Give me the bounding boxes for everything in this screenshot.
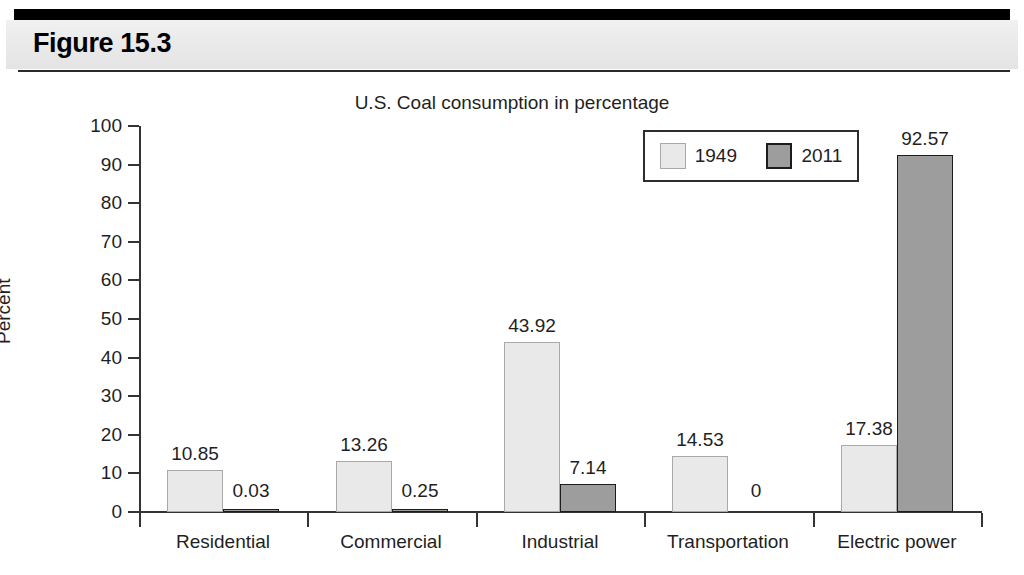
figure-label: Figure 15.3	[33, 28, 171, 59]
y-axis-tick	[128, 511, 139, 513]
bar-1949-3-value-label: 14.53	[655, 429, 745, 451]
y-axis-tick	[128, 279, 139, 281]
bar-2011-4[interactable]	[897, 155, 953, 512]
y-axis-tick-labels: 1009080706050403020100	[50, 82, 122, 575]
bar-2011-0[interactable]	[223, 509, 279, 512]
y-axis-tick-label: 40	[62, 347, 122, 369]
x-axis-tick	[307, 513, 309, 527]
x-axis-category-label: Industrial	[476, 531, 644, 553]
y-axis-tick-label: 50	[62, 308, 122, 330]
y-axis-tick	[128, 434, 139, 436]
legend-swatch-1949-icon	[660, 143, 686, 169]
bar-2011-3-value-label: 0	[711, 480, 801, 502]
y-axis-tick	[128, 472, 139, 474]
x-axis-category-label: Residential	[139, 531, 307, 553]
x-axis-tick	[813, 513, 815, 527]
bar-2011-1-value-label: 0.25	[375, 480, 465, 502]
bar-1949-2-value-label: 43.92	[487, 315, 577, 337]
legend-label-2011: 2011	[801, 145, 842, 167]
x-axis-category-label: Electric power	[813, 531, 981, 553]
bar-2011-2[interactable]	[560, 484, 616, 512]
x-axis-category-label: Commercial	[307, 531, 475, 553]
y-axis-tick	[128, 395, 139, 397]
y-axis-tick-label: 70	[62, 231, 122, 253]
y-axis-tick	[128, 318, 139, 320]
legend-label-1949: 1949	[695, 145, 737, 167]
figure-header: Figure 15.3	[0, 0, 1024, 82]
bar-2011-1[interactable]	[392, 509, 448, 512]
x-axis-tick	[981, 513, 983, 527]
bar-1949-1-value-label: 13.26	[319, 434, 409, 456]
x-axis-tick	[644, 513, 646, 527]
chart-region: U.S. Coal consumption in percentage Perc…	[0, 82, 1024, 575]
y-axis-tick-label: 100	[62, 115, 122, 137]
y-axis-tick-label: 90	[62, 154, 122, 176]
bar-2011-4-value-label: 92.57	[880, 128, 970, 150]
bar-2011-0-value-label: 0.03	[206, 480, 296, 502]
header-divider-rule	[18, 70, 1010, 72]
y-axis-tick	[128, 164, 139, 166]
y-axis-tick-label: 20	[62, 424, 122, 446]
y-axis-tick	[128, 125, 139, 127]
legend-swatch-2011-icon	[766, 143, 792, 169]
bar-2011-2-value-label: 7.14	[543, 457, 633, 479]
y-axis-line	[139, 126, 141, 524]
chart-legend: 1949 2011	[643, 130, 859, 182]
bar-1949-0-value-label: 10.85	[150, 443, 240, 465]
y-axis-tick-label: 60	[62, 269, 122, 291]
x-axis-tick	[139, 513, 141, 527]
legend-item-2011[interactable]: 2011	[766, 143, 842, 169]
bar-1949-2[interactable]	[504, 342, 560, 512]
x-axis-category-label: Transportation	[644, 531, 812, 553]
y-axis-tick-label: 10	[62, 462, 122, 484]
y-axis-tick-label: 0	[62, 501, 122, 523]
bar-1949-4[interactable]	[841, 445, 897, 512]
y-axis-tick-label: 30	[62, 385, 122, 407]
y-axis-tick	[128, 202, 139, 204]
chart-title: U.S. Coal consumption in percentage	[0, 92, 1024, 114]
x-axis-tick	[476, 513, 478, 527]
y-axis-tick	[128, 241, 139, 243]
legend-item-1949[interactable]: 1949	[660, 143, 737, 169]
y-axis-tick	[128, 357, 139, 359]
y-axis-tick-label: 80	[62, 192, 122, 214]
header-black-bar	[14, 9, 1010, 20]
y-axis-title: Percent	[0, 279, 15, 344]
